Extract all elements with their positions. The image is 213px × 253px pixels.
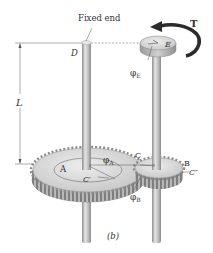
label-C: C: [135, 151, 141, 160]
shaft-d: [82, 42, 91, 170]
leader-fixed-end: [86, 28, 92, 41]
fixed-end-cap: [82, 41, 91, 45]
label-phi-e: φE: [130, 68, 141, 79]
label-phi-b: φB: [130, 192, 141, 203]
label-L: L: [15, 97, 23, 108]
gear-shaft-diagram: L T Fixed end: [0, 0, 213, 253]
figure-caption: (b): [107, 231, 119, 241]
label-B: B: [184, 159, 190, 168]
label-C-double-prime: C″: [189, 168, 198, 177]
label-A: A: [59, 164, 67, 174]
label-D: D: [70, 48, 78, 58]
length-dimension-L: [14, 43, 84, 164]
label-C-prime: C′: [83, 175, 91, 184]
label-fixed-end: Fixed end: [78, 13, 121, 23]
label-E: E: [164, 40, 171, 49]
shaft-e-lower: [152, 180, 161, 243]
label-T: T: [190, 18, 198, 29]
shaft-e: [152, 52, 161, 170]
